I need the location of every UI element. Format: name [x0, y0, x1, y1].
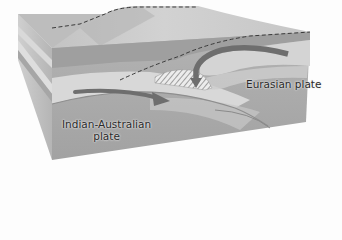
indian-australian-plate-label-line1: Indian-Australian — [62, 118, 151, 130]
indian-australian-plate-label-line2: plate — [62, 130, 151, 142]
eurasian-plate-label: Eurasian plate — [246, 78, 321, 90]
indian-australian-plate-label: Indian-Australian plate — [62, 118, 151, 142]
